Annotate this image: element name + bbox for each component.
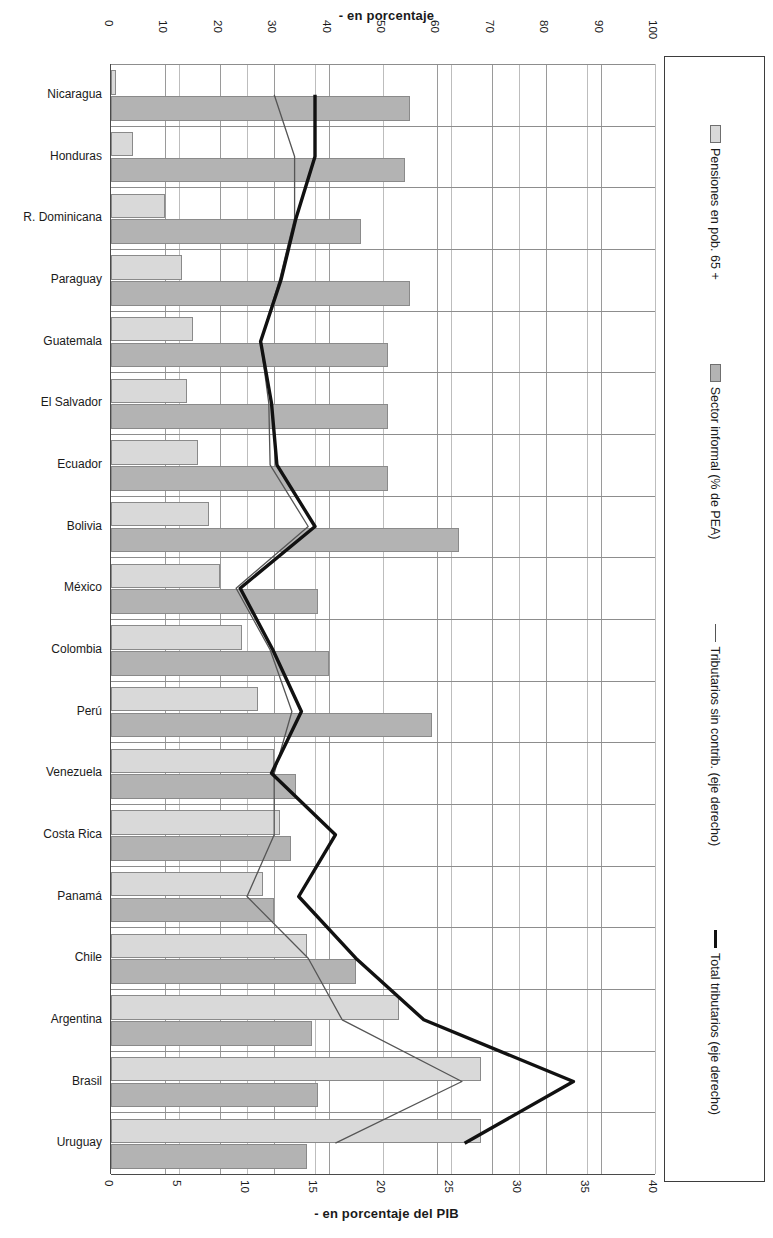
legend-item-0: Pensiones en pob. 65 + (709, 125, 723, 280)
bar-informal-brasil (111, 1083, 318, 1108)
category-label-m-xico: México (0, 580, 102, 594)
chart-figure: - en porcentaje - en porcentaje del PIB … (0, 0, 773, 1238)
bar-informal-costa-rica (111, 836, 291, 861)
bar-informal-nicaragua (111, 96, 410, 121)
legend-line-thick-icon (714, 930, 717, 948)
row-separator (111, 681, 655, 682)
bottom-axis-title: - en porcentaje del PIB (0, 1206, 773, 1221)
tick-label-top-40: 40 (321, 20, 333, 33)
tick-label-top-70: 70 (484, 20, 496, 33)
row-separator (111, 1051, 655, 1052)
tick-label-bot-0: 0 (103, 1180, 115, 1186)
legend-item-2: Tributarios sin contrib. (eje derecho) (709, 624, 723, 847)
tick-label-bot-15: 15 (307, 1180, 319, 1193)
bar-pensiones-honduras (111, 132, 133, 157)
bar-informal-paraguay (111, 281, 410, 306)
bar-informal-m-xico (111, 589, 318, 614)
tick-label-top-0: 0 (103, 20, 115, 26)
category-label-argentina: Argentina (0, 1012, 102, 1026)
category-label-costa-rica: Costa Rica (0, 827, 102, 841)
bar-pensiones-nicaragua (111, 70, 116, 95)
bar-informal-guatemala (111, 343, 388, 368)
tick-label-top-50: 50 (375, 20, 387, 33)
row-separator (111, 311, 655, 312)
bar-pensiones-chile (111, 934, 307, 959)
row-separator (111, 866, 655, 867)
row-separator (111, 434, 655, 435)
tick-label-bot-25: 25 (443, 1180, 455, 1193)
row-separator (111, 187, 655, 188)
row-separator (111, 742, 655, 743)
row-separator (111, 64, 655, 65)
plot-area (110, 64, 654, 1174)
legend-item-1: Sector informal (% de PEA) (709, 364, 723, 540)
gridline-bottom-40 (655, 64, 656, 1174)
category-label-chile: Chile (0, 950, 102, 964)
bar-pensiones-bolivia (111, 502, 209, 527)
bar-pensiones-colombia (111, 625, 242, 650)
bar-pensiones-panam- (111, 872, 263, 897)
row-separator (111, 126, 655, 127)
category-label-ecuador: Ecuador (0, 457, 102, 471)
legend-item-label: Tributarios sin contrib. (eje derecho) (709, 647, 723, 847)
category-label-r-dominicana: R. Dominicana (0, 210, 102, 224)
bar-informal-el-salvador (111, 404, 388, 429)
row-separator (111, 372, 655, 373)
category-label-venezuela: Venezuela (0, 765, 102, 779)
tick-label-top-20: 20 (212, 20, 224, 33)
bar-rows (111, 64, 655, 1174)
tick-label-top-80: 80 (538, 20, 550, 33)
bar-pensiones-paraguay (111, 255, 182, 280)
bottom-axis-line (111, 1174, 655, 1175)
bar-informal-chile (111, 959, 356, 984)
legend-box: Pensiones en pob. 65 +Sector informal (%… (664, 56, 765, 1182)
category-label-uruguay: Uruguay (0, 1135, 102, 1149)
bar-informal-bolivia (111, 528, 459, 553)
bar-informal-r-dominicana (111, 219, 361, 244)
legend-item-label: Total tributarios (eje derecho) (709, 953, 723, 1115)
bar-informal-per- (111, 713, 432, 738)
category-label-bolivia: Bolivia (0, 519, 102, 533)
tick-label-top-10: 10 (157, 20, 169, 33)
bar-pensiones-guatemala (111, 317, 193, 342)
row-separator (111, 804, 655, 805)
category-label-el-salvador: El Salvador (0, 395, 102, 409)
category-label-guatemala: Guatemala (0, 334, 102, 348)
row-separator (111, 619, 655, 620)
legend-line-thin-icon (715, 624, 716, 642)
category-label-paraguay: Paraguay (0, 272, 102, 286)
tick-label-bot-35: 35 (579, 1180, 591, 1193)
bar-informal-argentina (111, 1021, 312, 1046)
tick-label-bot-20: 20 (375, 1180, 387, 1193)
row-separator (111, 496, 655, 497)
bar-pensiones-ecuador (111, 440, 198, 465)
bar-informal-colombia (111, 651, 329, 676)
bar-informal-ecuador (111, 466, 388, 491)
bar-informal-uruguay (111, 1144, 307, 1169)
bar-pensiones-per- (111, 687, 258, 712)
category-label-per-: Perú (0, 704, 102, 718)
bar-pensiones-brasil (111, 1057, 481, 1082)
tick-label-top-60: 60 (429, 20, 441, 33)
category-label-panam-: Panamá (0, 889, 102, 903)
legend-item-3: Total tributarios (eje derecho) (709, 930, 723, 1115)
category-label-honduras: Honduras (0, 149, 102, 163)
bar-pensiones-venezuela (111, 749, 274, 774)
bar-pensiones-m-xico (111, 564, 220, 589)
category-label-brasil: Brasil (0, 1074, 102, 1088)
bar-pensiones-costa-rica (111, 810, 280, 835)
row-separator (111, 1112, 655, 1113)
legend-item-label: Sector informal (% de PEA) (709, 387, 723, 540)
row-separator (111, 989, 655, 990)
bar-informal-venezuela (111, 774, 296, 799)
row-separator (111, 249, 655, 250)
category-label-nicaragua: Nicaragua (0, 87, 102, 101)
legend-swatch-dark-icon (710, 364, 721, 382)
bar-pensiones-r-dominicana (111, 194, 165, 219)
bar-informal-panam- (111, 898, 274, 923)
legend-swatch-light-icon (710, 125, 721, 143)
tick-label-bot-5: 5 (171, 1180, 183, 1186)
bar-pensiones-el-salvador (111, 379, 187, 404)
tick-label-bot-10: 10 (239, 1180, 251, 1193)
category-label-colombia: Colombia (0, 642, 102, 656)
